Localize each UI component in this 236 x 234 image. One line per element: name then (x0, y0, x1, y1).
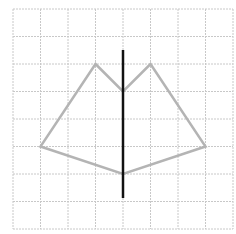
symmetry-grid-diagram (0, 0, 236, 234)
